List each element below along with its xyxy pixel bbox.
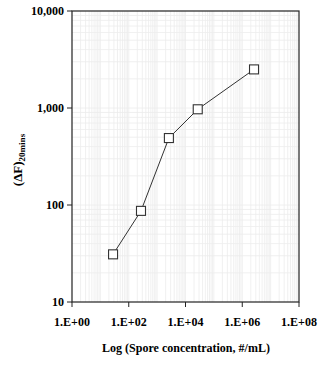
y-axis-title: (ΔF)20mins [10, 133, 27, 186]
data-point-marker [193, 105, 202, 114]
data-point-marker [136, 206, 145, 215]
y-axis-ticks: 101001,00010,000 [31, 4, 72, 309]
data-point-marker [250, 65, 259, 74]
x-tick-label: 1.E+08 [281, 315, 317, 329]
y-tick-label: 10 [52, 295, 64, 309]
grid-lines [72, 11, 299, 302]
data-point-marker [164, 134, 173, 143]
x-axis-ticks: 1.E+001.E+021.E+041.E+061.E+08 [54, 302, 317, 329]
x-tick-label: 1.E+06 [224, 315, 260, 329]
x-axis-title: Log (Spore concentration, #/mL) [102, 341, 270, 355]
x-tick-label: 1.E+02 [111, 315, 147, 329]
x-tick-label: 1.E+00 [54, 315, 90, 329]
y-axis-title-main: (ΔF) [10, 161, 25, 186]
x-tick-label: 1.E+04 [168, 315, 204, 329]
y-axis-title-subscript: 20mins [17, 133, 27, 161]
data-point-marker [109, 250, 118, 259]
y-tick-label: 10,000 [31, 4, 64, 18]
y-tick-label: 100 [46, 198, 64, 212]
chart: 101001,00010,000 1.E+001.E+021.E+041.E+0… [0, 0, 326, 367]
y-tick-label: 1,000 [37, 101, 64, 115]
